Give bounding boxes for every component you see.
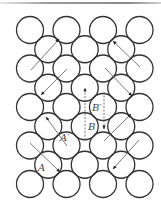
- atom-circle: [71, 36, 98, 63]
- label-B: B: [87, 121, 95, 132]
- label-B-prime: B′: [91, 102, 102, 113]
- circle-packing-figure: AA′BB′: [0, 0, 161, 215]
- atom-circle: [35, 113, 62, 140]
- label-A-prime: A′: [59, 132, 70, 143]
- atom-circle: [108, 151, 135, 178]
- atom-circle: [108, 113, 135, 140]
- atom-circle: [71, 151, 98, 178]
- close-packed-diagram: AA′BB′: [0, 0, 161, 215]
- atom-circle: [108, 74, 135, 101]
- atom-circle: [35, 36, 62, 63]
- label-A: A: [37, 162, 45, 173]
